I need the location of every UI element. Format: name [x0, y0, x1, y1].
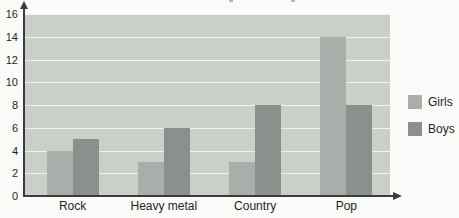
bar-girls-rock: [47, 151, 73, 197]
bar-girls-heavy-metal: [138, 162, 164, 196]
bar-boys-country: [255, 105, 281, 196]
legend-swatch-boys: [408, 122, 422, 136]
category-label-rock: Rock: [28, 200, 118, 213]
bar-girls-country: [229, 162, 255, 196]
bar-boys-rock: [73, 139, 99, 196]
legend-item-girls: Girls: [408, 95, 455, 109]
y-tick-label-2: 2: [0, 168, 18, 179]
bar-girls-pop: [320, 37, 346, 196]
y-axis-arrow-icon: [20, 1, 28, 9]
legend-label-girls: Girls: [428, 95, 453, 109]
cropped-title-fragment: [291, 0, 295, 2]
x-axis-line: [23, 195, 394, 197]
category-label-pop: Pop: [301, 200, 391, 213]
cropped-title-fragment: [229, 0, 233, 2]
legend-label-boys: Boys: [428, 122, 455, 136]
legend-item-boys: Boys: [408, 122, 455, 136]
gridline-16: [25, 14, 390, 15]
y-tick-label-4: 4: [0, 146, 18, 157]
bar-chart: 0246810121416 RockHeavy metalCountryPop …: [0, 0, 459, 218]
y-tick-label-10: 10: [0, 77, 18, 88]
legend-swatch-girls: [408, 95, 422, 109]
y-tick-label-16: 16: [0, 9, 18, 20]
category-label-heavy-metal: Heavy metal: [119, 200, 209, 213]
plot-area: [25, 14, 390, 196]
y-tick-label-6: 6: [0, 123, 18, 134]
y-tick-label-12: 12: [0, 55, 18, 66]
bar-boys-heavy-metal: [164, 128, 190, 196]
x-axis-arrow-icon: [393, 192, 402, 200]
y-tick-label-0: 0: [0, 191, 18, 202]
y-tick-label-8: 8: [0, 100, 18, 111]
bar-boys-pop: [346, 105, 372, 196]
y-tick-label-14: 14: [0, 32, 18, 43]
legend: GirlsBoys: [408, 95, 455, 136]
y-axis-line: [23, 8, 25, 197]
category-label-country: Country: [210, 200, 300, 213]
